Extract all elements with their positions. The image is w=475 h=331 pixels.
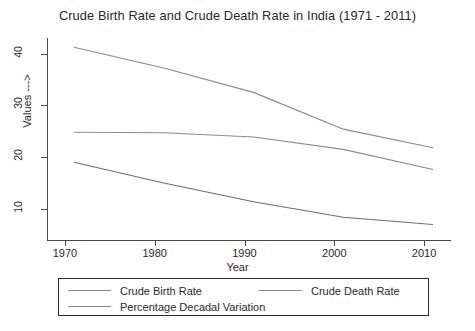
x-tick-mark <box>155 241 156 246</box>
y-tick-label: 30 <box>0 97 36 109</box>
legend-item-crude-death-rate: Crude Death Rate <box>259 283 400 298</box>
legend-item-label: Crude Death Rate <box>311 285 400 297</box>
x-tick-mark <box>65 241 66 246</box>
legend-line-swatch <box>68 290 111 291</box>
y-tick-label: 10 <box>0 201 36 213</box>
chart-title: Crude Birth Rate and Crude Death Rate in… <box>0 8 475 23</box>
legend-item-percentage-decadal-variation: Percentage Decadal Variation <box>68 299 265 314</box>
x-tick-mark <box>424 241 425 246</box>
x-axis-line <box>47 240 451 241</box>
series-line-crude-death-rate <box>74 162 433 224</box>
x-tick-label: 2000 <box>304 247 364 259</box>
series-line-percentage-decadal-variation <box>74 132 433 169</box>
x-tick-label: 1990 <box>215 247 275 259</box>
plot-area <box>47 38 451 240</box>
legend-item-label: Crude Birth Rate <box>120 285 202 297</box>
x-axis-title: Year <box>0 261 475 273</box>
x-tick-label: 2010 <box>394 247 454 259</box>
x-tick-label: 1970 <box>35 247 95 259</box>
chart-figure: Crude Birth Rate and Crude Death Rate in… <box>0 0 475 331</box>
x-tick-mark <box>245 241 246 246</box>
x-tick-mark <box>334 241 335 246</box>
series-lines <box>47 38 451 240</box>
legend-item-crude-birth-rate: Crude Birth Rate <box>68 283 202 298</box>
legend-line-swatch <box>259 290 302 291</box>
legend-item-label: Percentage Decadal Variation <box>120 301 265 313</box>
legend-line-swatch <box>68 306 111 307</box>
x-tick-label: 1980 <box>125 247 185 259</box>
chart-legend: Crude Birth Rate Crude Death Rate Percen… <box>58 278 429 316</box>
y-tick-label: 40 <box>0 46 36 58</box>
y-tick-label: 20 <box>0 149 36 161</box>
